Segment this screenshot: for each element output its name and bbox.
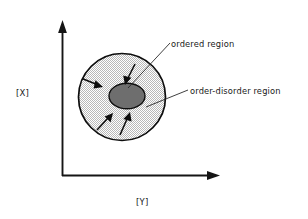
x-axis-arrowhead — [207, 171, 220, 180]
y-axis-arrowhead — [58, 20, 67, 33]
ordered-region-shape — [109, 83, 145, 109]
diagram-figure: [X] [Y] ordered region order-disorder re… — [0, 0, 308, 219]
order-disorder-region-label: order-disorder region — [190, 86, 281, 96]
x-axis-label: [Y] — [136, 197, 148, 207]
y-axis-label: [X] — [16, 88, 29, 98]
ordered-region-label: ordered region — [171, 39, 234, 49]
